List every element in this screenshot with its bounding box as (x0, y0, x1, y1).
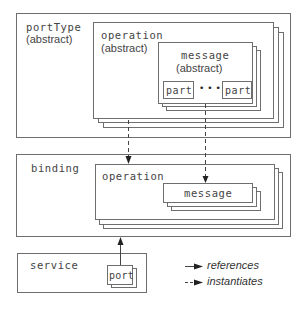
legend-references-label: references (207, 259, 259, 271)
legend-solid-arrowhead (194, 264, 203, 270)
arrowhead-port (118, 237, 124, 245)
legend-instantiates-label: instantiates (207, 275, 263, 287)
arrowhead-operation (126, 156, 132, 164)
arrows-layer (0, 0, 308, 309)
legend-dashed-arrowhead (194, 280, 203, 286)
arrowhead-message (203, 176, 209, 183)
